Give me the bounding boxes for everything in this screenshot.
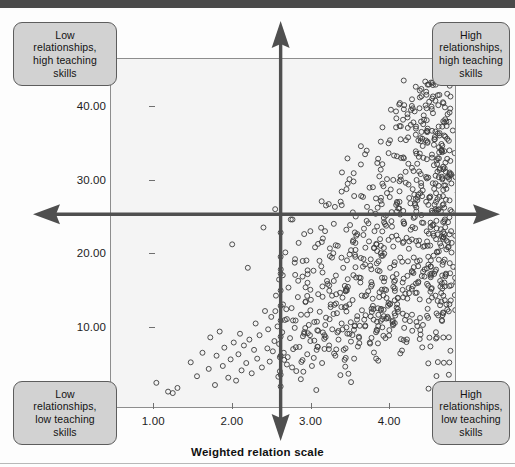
y-tick-mark: [149, 106, 155, 107]
y-tick-mark: [149, 327, 155, 328]
quadrant-label-line: relationships,: [439, 400, 502, 412]
quadrant-label-line: Low: [55, 29, 75, 41]
quadrant-label-bottom-left: Lowrelationships,low teachingskills: [13, 381, 117, 445]
quadrant-label-top-left-text: Lowrelationships,high teachingskills: [33, 29, 97, 79]
y-tick-label: 30.00: [77, 174, 106, 186]
quadrant-label-line: relationships,: [33, 400, 96, 412]
x-tick-label: 3.00: [299, 415, 322, 427]
quadrant-label-line: skills: [459, 426, 482, 438]
plot-area: [110, 58, 456, 408]
quadrant-label-bottom-right-text: Highrelationships,low teachingskills: [439, 388, 502, 438]
y-tick-label: 40.00: [77, 100, 106, 112]
x-tick-label: 2.00: [220, 415, 243, 427]
quadrant-label-line: high teaching: [439, 54, 503, 66]
quadrant-label-line: High: [460, 29, 482, 41]
x-tick-mark: [389, 403, 390, 409]
arrow-head-down-icon: [272, 414, 290, 441]
x-tick-mark: [311, 403, 312, 409]
quadrant-label-top-left: Lowrelationships,high teachingskills: [13, 22, 117, 86]
arrow-head-right-icon: [473, 204, 500, 224]
scatter-markers-layer: [111, 59, 455, 407]
quadrant-label-line: skills: [53, 67, 76, 79]
quadrant-label-line: skills: [53, 426, 76, 438]
quadrant-label-line: relationships,: [33, 41, 96, 53]
y-tick-mark: [149, 253, 155, 254]
scatter-plot-figure: 10.0020.0030.0040.00 Discursive Weighted…: [0, 0, 515, 467]
arrow-head-up-icon: [272, 21, 290, 48]
x-tick-mark: [232, 403, 233, 409]
quadrant-label-bottom-left-text: Lowrelationships,low teachingskills: [33, 388, 96, 438]
quadrant-label-top-right-text: Highrelationships,high teachingskills: [439, 29, 503, 79]
quadrant-label-line: high teaching: [33, 54, 97, 66]
x-axis-title: Weighted relation scale: [0, 446, 515, 458]
quadrant-label-bottom-right: Highrelationships,low teachingskills: [432, 381, 510, 445]
quadrant-label-line: skills: [459, 67, 482, 79]
quadrant-label-top-right: Highrelationships,high teachingskills: [432, 22, 510, 86]
x-tick-label: 4.00: [378, 415, 401, 427]
quadrant-label-line: low teaching: [441, 413, 501, 425]
quadrant-label-line: low teaching: [35, 413, 95, 425]
scan-artifact-bottom-rule: [0, 463, 515, 464]
y-tick-label: 20.00: [77, 247, 106, 259]
quadrant-label-line: Low: [55, 388, 75, 400]
x-tick-mark: [153, 403, 154, 409]
x-tick-label: 1.00: [142, 415, 165, 427]
quadrant-label-line: High: [460, 388, 482, 400]
quadrant-label-line: relationships,: [439, 41, 502, 53]
y-tick-label: 10.00: [77, 321, 106, 333]
y-tick-mark: [149, 180, 155, 181]
